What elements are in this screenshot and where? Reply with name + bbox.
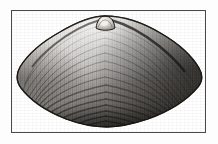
bivalve-shell-illustration bbox=[12, 11, 206, 133]
illustration-frame bbox=[11, 10, 206, 133]
figure-root bbox=[0, 0, 218, 144]
shell-body bbox=[12, 11, 206, 133]
